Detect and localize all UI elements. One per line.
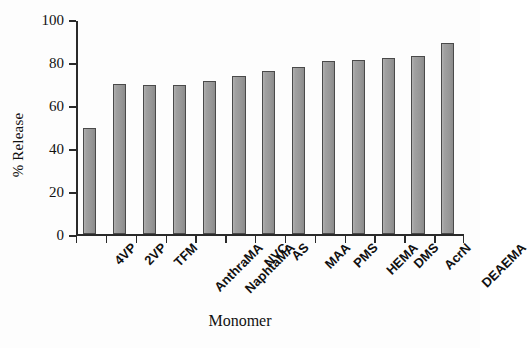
y-axis-tick-label: 20 [49,184,64,201]
bar [203,81,216,235]
plot-area: 020406080100 [76,21,464,236]
y-axis-tick: 20 [69,192,76,193]
bar [322,61,335,234]
bar [83,128,96,234]
bar [382,58,395,234]
x-axis-category-label: 4VP [111,240,139,268]
y-axis-tick-label: 40 [49,141,64,158]
bar [232,76,245,234]
y-axis-tick: 100 [69,20,76,21]
y-axis-title: % Release [10,90,27,200]
y-axis-tick-label: 100 [42,12,65,29]
bar [143,85,156,234]
x-axis-category-label: PMS [351,240,382,271]
y-axis-tick-label: 0 [57,227,65,244]
y-axis-tick-label: 80 [49,55,64,72]
y-axis-tick: 80 [69,63,76,64]
y-axis-tick: 40 [69,149,76,150]
bar [411,56,424,234]
x-axis-category-label: MAA [321,240,353,272]
x-axis-line [76,234,464,236]
y-axis-tick: 60 [69,106,76,107]
bar [113,84,126,235]
x-axis-category-label: TFM [171,240,200,269]
y-axis-tick-label: 60 [49,98,64,115]
x-axis-category-label: 2VP [141,240,169,268]
bar [441,43,454,234]
bar [352,60,365,234]
bar [292,67,305,235]
y-axis-tick: 0 [69,235,76,236]
bar [262,71,275,234]
x-axis-title: Monomer [0,312,480,330]
y-axis-line [76,21,78,236]
x-axis-category-labels: 4VP2VPTFMAnthraMANaphtaMANVCASMAAPMSHEMA… [76,240,476,310]
bar [173,85,186,234]
x-axis-category-label: DEAEMA [478,240,528,290]
x-axis-category-label: AcrN [441,240,474,273]
